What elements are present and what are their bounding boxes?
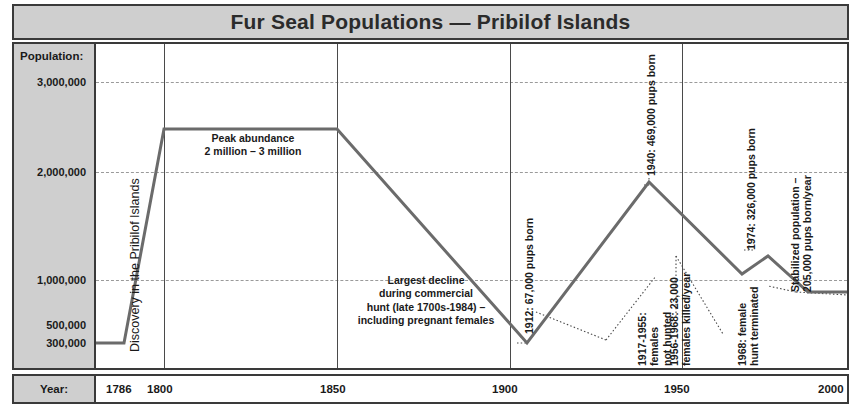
annotation-stabilized: Stabilized population – 205,000 pups bor… (789, 175, 814, 292)
x-tick-1786: 1786 (106, 383, 132, 395)
annotation-discovery: Discovery in the Pribilof Islands (128, 178, 142, 352)
y-tick-1000000: 1,000,000 (37, 274, 86, 286)
annotation-females-killed-line2: females killed/year (680, 273, 692, 366)
x-axis-title-cell: Year: (14, 376, 96, 402)
annotation-females-killed: 1956-1968: 23,000 females killed/year (668, 273, 693, 366)
x-tick-1950: 1950 (664, 383, 690, 395)
annotation-peak-abundance-line2: 2 million – 3 million (168, 145, 338, 158)
annotation-pups-1912: 1912: 67,000 pups born (523, 218, 535, 334)
x-tick-1900: 1900 (492, 383, 518, 395)
y-tick-500000: 500,000 (46, 319, 86, 331)
annotation-pups-1940: 1940: 469,000 pups born (645, 54, 657, 176)
chart-page: Fur Seal Populations — Pribilof Islands … (0, 0, 861, 411)
y-tick-2000000: 2,000,000 (37, 166, 86, 178)
chart-title-bar: Fur Seal Populations — Pribilof Islands (12, 4, 849, 40)
plot-area: Discovery in the Pribilof Islands Peak a… (96, 44, 847, 368)
annotation-hunt-terminated-line1: 1968: female (736, 287, 748, 366)
annotation-largest-decline-line2: during commercial (342, 287, 510, 300)
x-tick-1850: 1850 (320, 383, 346, 395)
page-title: Fur Seal Populations — Pribilof Islands (231, 10, 631, 34)
annotation-females-not-hunted-line1: 1917-1955: (636, 312, 648, 366)
annotation-stabilized-line1: Stabilized population – (789, 175, 801, 292)
annotation-females-not-hunted-line2: females (648, 312, 660, 366)
annotation-peak-abundance: Peak abundance 2 million – 3 million (168, 132, 338, 159)
annotation-females-killed-line1: 1956-1968: 23,000 (668, 273, 680, 366)
annotation-largest-decline-line4: including pregnant females (342, 314, 510, 327)
annotation-hunt-terminated: 1968: female hunt terminated (736, 287, 761, 366)
x-axis-title: Year: (40, 383, 68, 395)
annotation-pups-1974: 1974: 326,000 pups born (745, 128, 757, 250)
y-tick-300000: 300,000 (46, 337, 86, 349)
x-tick-1800: 1800 (147, 383, 173, 395)
x-tick-2000: 2000 (818, 383, 844, 395)
chart-frame: Population: 3,000,000 2,000,000 1,000,00… (12, 42, 849, 370)
x-axis-ticks: 1786 1800 1850 1900 1950 2000 (96, 376, 847, 402)
x-axis-bar: Year: 1786 1800 1850 1900 1950 2000 (12, 374, 849, 404)
y-axis-title: Population: (20, 50, 83, 62)
annotation-peak-abundance-line1: Peak abundance (168, 132, 338, 145)
annotation-largest-decline-line1: Largest decline (342, 274, 510, 287)
annotation-largest-decline: Largest decline during commercial hunt (… (342, 274, 510, 328)
annotation-hunt-terminated-line2: hunt terminated (748, 287, 760, 366)
annotation-largest-decline-line3: hunt (late 1700s-1984) – (342, 301, 510, 314)
y-axis-panel: Population: 3,000,000 2,000,000 1,000,00… (14, 44, 96, 368)
annotation-stabilized-line2: 205,000 pups born/year (801, 175, 813, 292)
y-tick-3000000: 3,000,000 (37, 76, 86, 88)
